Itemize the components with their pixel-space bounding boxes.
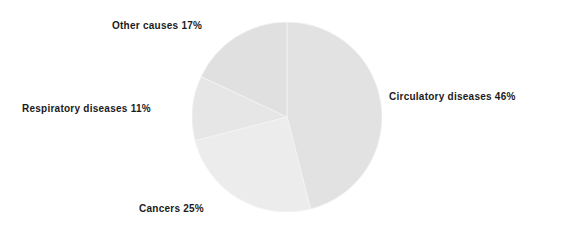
pie-svg (192, 22, 382, 212)
pie-label-other-causes: Other causes 17% (112, 20, 202, 32)
pie-label-circulatory-diseases: Circulatory diseases 46% (389, 91, 516, 103)
pie-chart-graphic (192, 22, 382, 212)
pie-label-respiratory-diseases: Respiratory diseases 11% (22, 103, 151, 115)
pie-chart-figure: Other causes 17% Respiratory diseases 11… (0, 0, 567, 229)
pie-label-cancers: Cancers 25% (139, 203, 204, 215)
